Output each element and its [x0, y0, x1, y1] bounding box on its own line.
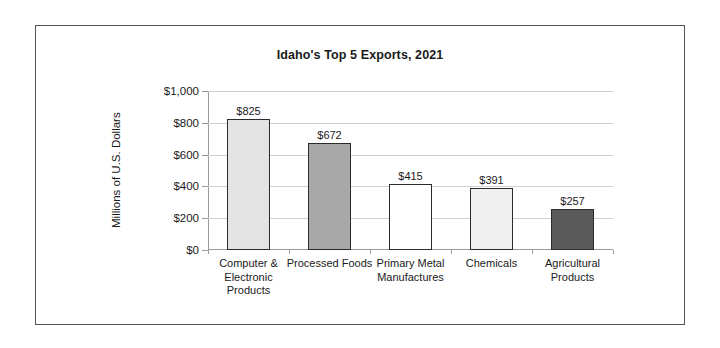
y-axis-tick	[202, 155, 208, 156]
y-axis-tick-label: $200	[173, 212, 199, 224]
chart-figure-frame: Idaho's Top 5 Exports, 2021 Millions of …	[35, 25, 685, 325]
gridline	[208, 91, 613, 92]
chart-title: Idaho's Top 5 Exports, 2021	[36, 48, 684, 62]
bar[interactable]: $391Chemicals	[470, 188, 513, 250]
x-axis-tick	[370, 250, 371, 254]
y-axis-tick-label: $600	[173, 149, 199, 161]
y-axis-tick	[202, 186, 208, 187]
x-axis-tick	[532, 250, 533, 254]
y-axis-tick	[202, 123, 208, 124]
bar[interactable]: $257Agricultural Products	[551, 209, 594, 250]
y-axis-tick-label: $800	[173, 117, 199, 129]
bar[interactable]: $672Processed Foods	[308, 143, 351, 250]
y-axis-tick-label: $0	[186, 244, 199, 256]
y-axis-tick-label: $1,000	[164, 85, 199, 97]
bar-value-label: $257	[560, 195, 584, 207]
x-axis-category-label: Chemicals	[446, 257, 538, 271]
y-axis-line	[208, 91, 209, 250]
y-axis-tick	[202, 218, 208, 219]
bar-value-label: $415	[398, 170, 422, 182]
x-axis-tick	[289, 250, 290, 254]
bar[interactable]: $825Computer & Electronic Products	[227, 119, 270, 250]
bar-value-label: $825	[236, 105, 260, 117]
x-axis-tick	[613, 250, 614, 254]
x-axis-category-label: Computer & Electronic Products	[203, 257, 295, 298]
x-axis-tick	[208, 250, 209, 254]
plot-area: $0$200$400$600$800$1,000 $825Computer & …	[208, 91, 613, 250]
y-axis-title: Millions of U.S. Dollars	[110, 91, 122, 250]
y-axis-tick-label: $400	[173, 180, 199, 192]
x-axis-category-label: Agricultural Products	[527, 257, 619, 284]
x-axis-category-label: Processed Foods	[284, 257, 376, 271]
bar-value-label: $672	[317, 129, 341, 141]
bar-value-label: $391	[479, 174, 503, 186]
x-axis-tick	[451, 250, 452, 254]
x-axis-category-label: Primary Metal Manufactures	[365, 257, 457, 284]
bar[interactable]: $415Primary Metal Manufactures	[389, 184, 432, 250]
y-axis-tick	[202, 91, 208, 92]
